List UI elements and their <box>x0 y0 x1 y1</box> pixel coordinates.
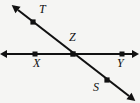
point-label-z: Z <box>69 31 76 43</box>
point-s-dot <box>104 77 109 82</box>
point-label-s: S <box>93 81 99 93</box>
diagram-canvas <box>0 0 140 103</box>
point-t-dot <box>30 19 35 24</box>
geometry-diagram: T X Z Y S <box>0 0 140 103</box>
point-label-t: T <box>39 3 46 15</box>
point-label-x: X <box>33 57 40 69</box>
point-label-y: Y <box>117 57 124 69</box>
point-z-dot <box>70 51 75 56</box>
